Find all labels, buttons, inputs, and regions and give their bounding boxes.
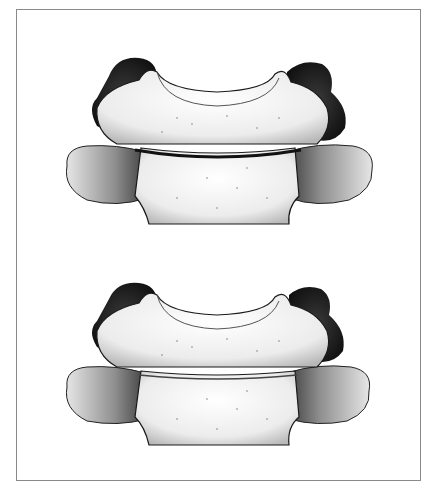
illustration-frame	[16, 9, 421, 481]
vertebra-drawing-lower	[17, 275, 422, 455]
vertebra-drawing-upper	[17, 48, 422, 233]
vertebra-view-upper	[17, 48, 422, 233]
vertebra-view-lower	[17, 275, 422, 455]
